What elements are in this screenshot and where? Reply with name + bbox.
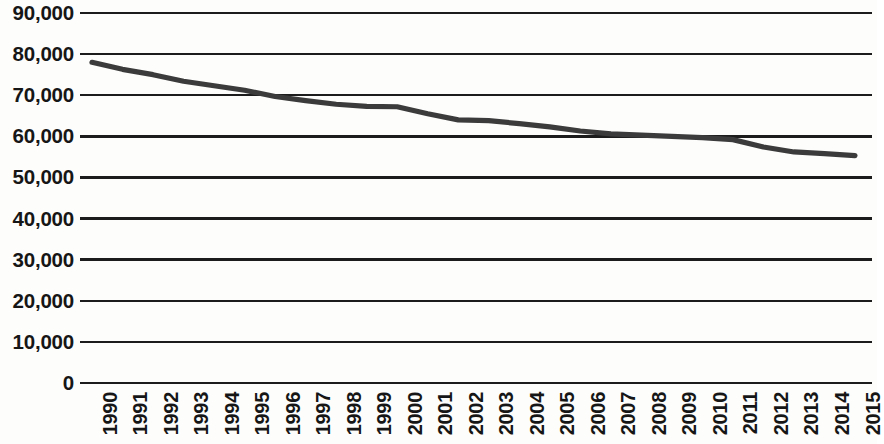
x-axis-tick-label: 1994 bbox=[222, 392, 242, 435]
y-axis-tick-label: 40,000 bbox=[0, 208, 74, 229]
gridline bbox=[80, 176, 872, 178]
x-axis-tick-label: 1998 bbox=[344, 392, 364, 435]
x-axis-tick-label: 2005 bbox=[557, 392, 577, 435]
y-axis-tick-label: 70,000 bbox=[0, 85, 74, 106]
y-axis-tick-label: 30,000 bbox=[0, 249, 74, 270]
x-axis-tick-label: 2003 bbox=[496, 392, 516, 435]
x-axis-tick-label: 2002 bbox=[466, 392, 486, 435]
x-axis-tick-label: 2010 bbox=[710, 392, 730, 435]
x-axis-tick-label: 2015 bbox=[863, 392, 883, 435]
x-axis-tick-label: 1993 bbox=[191, 392, 211, 435]
x-axis-tick-label: 2008 bbox=[649, 392, 669, 435]
gridline bbox=[80, 135, 872, 137]
gridline bbox=[80, 53, 872, 55]
x-axis-tick-label: 2011 bbox=[740, 392, 760, 434]
x-axis-tick-label: 2012 bbox=[771, 392, 791, 435]
y-axis-tick-label: 80,000 bbox=[0, 44, 74, 65]
x-axis-tick-label: 1996 bbox=[283, 392, 303, 435]
x-axis-tick-label: 2014 bbox=[832, 392, 852, 435]
y-axis-tick-label: 10,000 bbox=[0, 332, 74, 353]
y-axis-tick-label: 50,000 bbox=[0, 167, 74, 188]
gridline bbox=[80, 12, 872, 14]
x-axis-tick-label: 2013 bbox=[801, 392, 821, 435]
x-axis-tick-label: 2006 bbox=[588, 392, 608, 435]
data-series-line bbox=[92, 62, 855, 155]
gridline bbox=[80, 217, 872, 219]
y-axis-tick-label: 20,000 bbox=[0, 291, 74, 312]
gridline bbox=[80, 258, 872, 260]
x-axis-tick-label: 1995 bbox=[252, 392, 272, 435]
y-axis-tick-label: 90,000 bbox=[0, 3, 74, 24]
x-axis-tick-label: 2009 bbox=[679, 392, 699, 435]
x-axis-tick-label: 1990 bbox=[100, 392, 120, 435]
x-axis-tick-label: 2001 bbox=[435, 392, 455, 435]
x-axis-tick-label: 1999 bbox=[374, 392, 394, 435]
gridline bbox=[80, 341, 872, 343]
y-axis-tick-label: 60,000 bbox=[0, 126, 74, 147]
x-axis-tick-label: 1991 bbox=[130, 392, 150, 435]
y-axis-tick-label: 0 bbox=[0, 373, 74, 394]
gridline bbox=[80, 300, 872, 302]
x-axis-tick-label: 1992 bbox=[161, 392, 181, 435]
x-axis-tick-label: 2000 bbox=[405, 392, 425, 435]
gridline bbox=[80, 94, 872, 96]
gridline bbox=[80, 382, 872, 384]
x-axis-tick-label: 1997 bbox=[313, 392, 333, 435]
x-axis-tick-label: 2007 bbox=[618, 392, 638, 435]
x-axis-tick-label: 2004 bbox=[527, 392, 547, 435]
